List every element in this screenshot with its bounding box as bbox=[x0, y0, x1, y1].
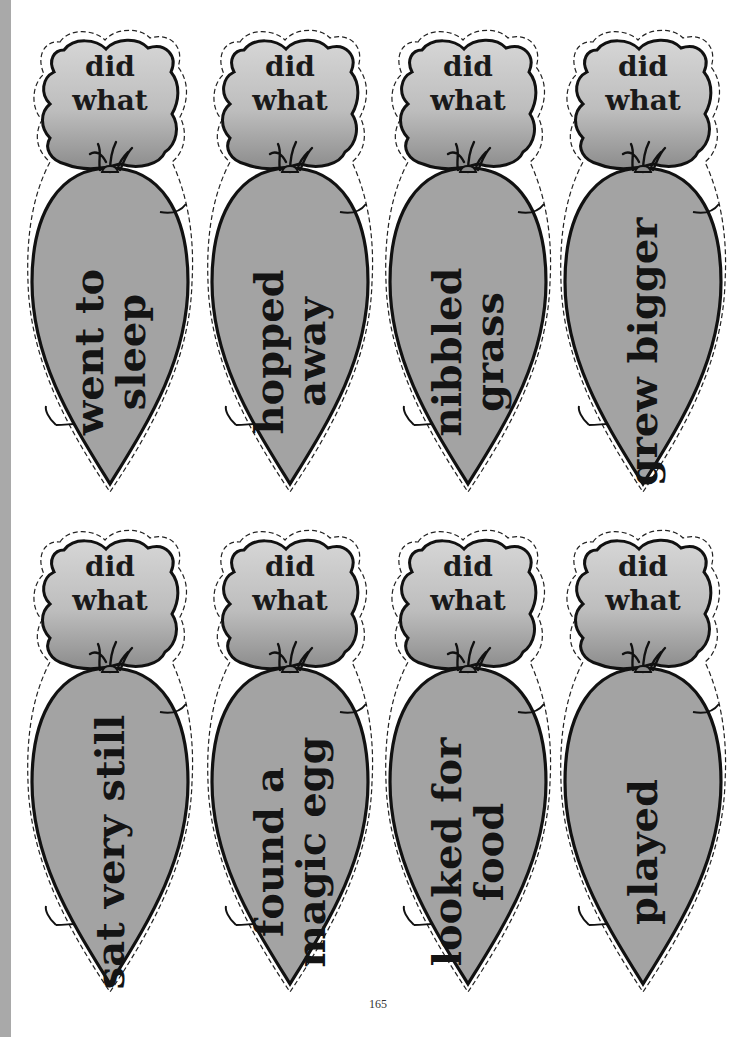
card-category-label: did what bbox=[378, 50, 558, 118]
phrase-line-1: went to bbox=[68, 269, 110, 436]
phrase-line-2: food bbox=[468, 738, 510, 967]
carrot-card: did what found a magic egg bbox=[200, 522, 380, 997]
card-phrase: hopped away bbox=[248, 269, 332, 434]
card-category-label: did what bbox=[200, 50, 380, 118]
carrot-card: did what played bbox=[553, 522, 733, 997]
leaf-line-2: what bbox=[553, 584, 733, 618]
phrase-line-2: magic egg bbox=[290, 736, 332, 967]
card-phrase: looked for food bbox=[426, 738, 510, 967]
leaf-line-1: did bbox=[20, 50, 200, 84]
leaf-line-1: did bbox=[378, 550, 558, 584]
phrase-line-1: hopped bbox=[248, 269, 290, 434]
card-category-label: did what bbox=[378, 550, 558, 618]
carrot-card: did what went to sleep bbox=[20, 22, 200, 497]
card-phrase: played bbox=[622, 779, 664, 925]
card-phrase: grew bigger bbox=[622, 218, 664, 486]
leaf-line-1: did bbox=[378, 50, 558, 84]
carrot-card: did what grew bigger bbox=[553, 22, 733, 497]
card-phrase: went to sleep bbox=[68, 269, 152, 436]
carrot-card: did what sat very still bbox=[20, 522, 200, 997]
card-phrase: nibbled grass bbox=[426, 268, 510, 437]
leaf-line-2: what bbox=[553, 84, 733, 118]
card-phrase: found a magic egg bbox=[248, 736, 332, 967]
page-number: 165 bbox=[0, 997, 756, 1012]
phrase-line-1: nibbled bbox=[426, 268, 468, 437]
carrot-card: did what nibbled grass bbox=[378, 22, 558, 497]
leaf-line-2: what bbox=[20, 84, 200, 118]
phrase-line-2: sleep bbox=[110, 269, 152, 436]
leaf-line-1: did bbox=[553, 550, 733, 584]
leaf-line-2: what bbox=[200, 584, 380, 618]
phrase-line-1: grew bigger bbox=[622, 218, 664, 486]
phrase-line-2: grass bbox=[468, 268, 510, 437]
phrase-line-1: looked for bbox=[426, 738, 468, 967]
leaf-line-1: did bbox=[200, 50, 380, 84]
leaf-line-2: what bbox=[378, 584, 558, 618]
leaf-line-2: what bbox=[378, 84, 558, 118]
phrase-line-2: away bbox=[290, 269, 332, 434]
card-category-label: did what bbox=[20, 50, 200, 118]
carrot-card: did what hopped away bbox=[200, 22, 380, 497]
leaf-line-1: did bbox=[20, 550, 200, 584]
leaf-line-1: did bbox=[200, 550, 380, 584]
card-category-label: did what bbox=[200, 550, 380, 618]
card-category-label: did what bbox=[553, 50, 733, 118]
leaf-line-1: did bbox=[553, 50, 733, 84]
leaf-line-2: what bbox=[200, 84, 380, 118]
page-edge-strip bbox=[0, 0, 11, 1037]
carrot-card: did what looked for food bbox=[378, 522, 558, 997]
card-category-label: did what bbox=[20, 550, 200, 618]
leaf-line-2: what bbox=[20, 584, 200, 618]
phrase-line-1: found a bbox=[248, 736, 290, 967]
phrase-line-1: played bbox=[622, 779, 664, 925]
card-category-label: did what bbox=[553, 550, 733, 618]
phrase-line-1: sat very still bbox=[89, 715, 131, 989]
card-phrase: sat very still bbox=[89, 715, 131, 989]
